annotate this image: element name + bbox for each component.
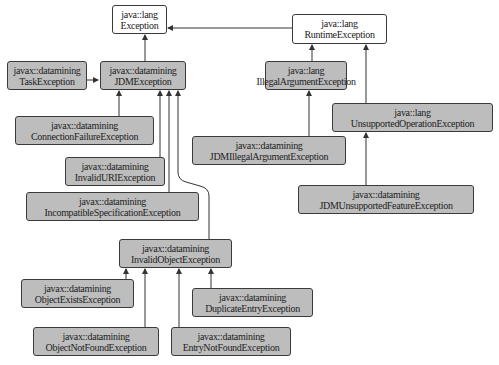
class-name: JDMIllegalArgumentException — [210, 151, 328, 162]
class-invalid-object-exception: javax::datamining InvalidObjectException — [119, 239, 232, 268]
class-name: InvalidObjectException — [131, 254, 220, 265]
class-jdm-unsupported-feature-exception: javax::datamining JDMUnsupportedFeatureE… — [298, 185, 474, 214]
package-label: java::lang — [321, 18, 357, 29]
class-object-exists-exception: javax::datamining ObjectExistsException — [21, 279, 134, 308]
class-invalid-uri-exception: javax::datamining InvalidURIException — [65, 157, 165, 186]
package-label: java::lang — [121, 9, 157, 20]
class-object-not-found-exception: javax::datamining ObjectNotFoundExceptio… — [33, 327, 159, 356]
class-exception: java::lang Exception — [112, 5, 167, 34]
class-name: JDMException — [115, 76, 172, 87]
package-label: javax::datamining — [197, 331, 264, 342]
class-name: JDMUnsupportedFeatureException — [319, 200, 452, 211]
package-label: javax::datamining — [219, 292, 286, 303]
class-runtime-exception: java::lang RuntimeException — [292, 14, 387, 44]
class-name: ConnectionFailureException — [31, 131, 138, 142]
package-label: javax::datamining — [13, 65, 80, 76]
package-label: javax::datamining — [81, 161, 148, 172]
class-name: IllegalArgumentException — [256, 76, 355, 87]
class-jdm-exception: javax::datamining JDMException — [100, 61, 186, 90]
class-name: DuplicateEntryException — [205, 303, 300, 314]
exception-hierarchy-diagram: java::lang Exception java::lang RuntimeE… — [0, 0, 499, 365]
class-entry-not-found-exception: javax::datamining EntryNotFoundException — [171, 327, 291, 356]
class-name: UnsupportedOperationException — [351, 118, 475, 129]
class-name: ObjectExistsException — [35, 294, 120, 305]
class-duplicate-entry-exception: javax::datamining DuplicateEntryExceptio… — [192, 288, 313, 317]
class-jdm-illegal-argument-exception: javax::datamining JDMIllegalArgumentExce… — [192, 136, 346, 165]
class-name: Exception — [121, 20, 159, 31]
package-label: javax::datamining — [109, 65, 176, 76]
package-label: javax::datamining — [62, 331, 129, 342]
class-connection-failure-exception: javax::datamining ConnectionFailureExcep… — [15, 116, 154, 145]
package-label: javax::datamining — [51, 120, 118, 131]
package-label: javax::datamining — [79, 196, 146, 207]
class-name: TaskException — [19, 76, 74, 87]
class-incompatible-specification-exception: javax::datamining IncompatibleSpecificat… — [26, 192, 199, 221]
package-label: javax::datamining — [142, 243, 209, 254]
package-label: java::lang — [288, 65, 324, 76]
package-label: javax::datamining — [44, 283, 111, 294]
class-name: InvalidURIException — [75, 172, 155, 183]
package-label: javax::datamining — [352, 189, 419, 200]
class-task-exception: javax::datamining TaskException — [7, 61, 87, 90]
class-unsupported-operation-exception: java::lang UnsupportedOperationException — [332, 103, 493, 132]
package-label: javax::datamining — [235, 140, 302, 151]
class-name: ObjectNotFoundException — [46, 342, 147, 353]
class-name: RuntimeException — [304, 29, 374, 40]
package-label: java::lang — [394, 107, 430, 118]
class-name: IncompatibleSpecificationException — [45, 207, 181, 218]
class-illegal-argument-exception: java::lang IllegalArgumentException — [265, 61, 347, 90]
class-name: EntryNotFoundException — [183, 342, 280, 353]
